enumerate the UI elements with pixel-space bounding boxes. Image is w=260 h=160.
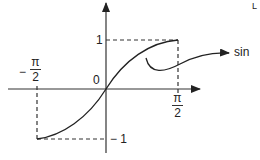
x-tick-right-den: 2 bbox=[174, 107, 181, 119]
corner-mark: L bbox=[252, 0, 257, 12]
x-tick-right-num: π bbox=[173, 92, 181, 104]
function-label: sin bbox=[234, 46, 249, 58]
pointer-arrow bbox=[146, 53, 229, 71]
x-tick-left-num: π bbox=[31, 56, 39, 68]
y-tick-minus-one: − 1 bbox=[110, 133, 127, 145]
origin-label: 0 bbox=[93, 74, 100, 86]
x-tick-left-sign: − bbox=[19, 66, 26, 78]
x-tick-left: π 2 bbox=[30, 56, 41, 83]
x-tick-left-den: 2 bbox=[32, 71, 39, 83]
y-tick-one: 1 bbox=[96, 34, 103, 46]
x-tick-right: π 2 bbox=[172, 92, 183, 119]
